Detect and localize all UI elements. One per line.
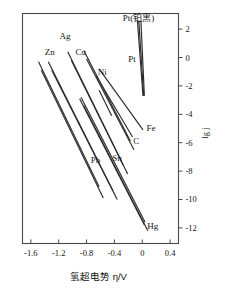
label-Pt: Pt — [128, 54, 136, 64]
label-Hg: Hg — [147, 221, 158, 231]
label-Zn: Zn — [45, 47, 55, 57]
label-Pt-black: Pt(铂黑) — [123, 12, 155, 23]
y-tick-label: -4 — [186, 109, 194, 119]
x-tick-label: -1.6 — [24, 248, 37, 258]
x-tick-label: 0 — [140, 248, 144, 258]
label-Fe: Fe — [146, 123, 155, 133]
label-Pb: Pb — [91, 155, 101, 165]
y-tick-label: 2 — [186, 24, 190, 34]
y-tick-label: -8 — [186, 166, 193, 176]
label-Cu: Cu — [75, 47, 86, 57]
label-Sn: Sn — [112, 153, 122, 163]
label-Ag: Ag — [59, 31, 70, 41]
y-tick-label: -12 — [186, 223, 197, 233]
y-tick-label: 0 — [186, 53, 190, 63]
label-Ni: Ni — [98, 67, 107, 77]
chart-canvas: -1.6-1.2-0.8-0.400.4 20-2-4-6-8-10-12 Ag… — [0, 0, 225, 293]
x-axis-title: 氢超电势 η/V — [70, 271, 128, 282]
y-tick-label: -6 — [186, 138, 193, 148]
x-tick-label: -0.4 — [108, 248, 122, 258]
y-tick-label: -2 — [186, 81, 193, 91]
label-C: C — [133, 136, 139, 146]
y-axis-title: lg j — [200, 127, 210, 138]
x-tick-label: 0.4 — [165, 248, 176, 258]
x-tick-label: -0.8 — [80, 248, 93, 258]
tafel-plot-figure: -1.6-1.2-0.8-0.400.4 20-2-4-6-8-10-12 Ag… — [0, 0, 225, 293]
x-tick-label: -1.2 — [52, 248, 65, 258]
y-tick-label: -10 — [186, 194, 197, 204]
